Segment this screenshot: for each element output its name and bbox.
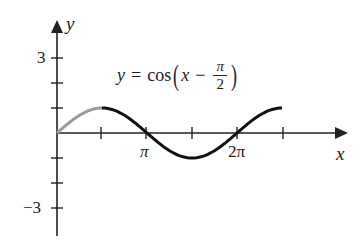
eq-lhs: y [117,65,125,86]
curve-segment-first-quarter [57,108,102,133]
equation-annotation: y = cos ( x − π 2 ) [117,58,239,92]
cosine-shift-chart [0,0,360,241]
eq-arg-var: x [181,65,189,86]
y-axis-label: y [66,14,74,33]
eq-fraction: π 2 [213,59,227,92]
y-axis-arrow-icon [51,20,63,33]
x-tick-label-pi: π [140,143,149,160]
x-axis-label: x [336,144,344,163]
x-tick-label-2pi: 2π [228,143,245,160]
y-tick-label-3: 3 [37,49,46,66]
eq-func: cos [147,65,171,86]
x-axis-arrow-icon [335,127,348,139]
left-paren: ( [173,58,179,92]
eq-minus: − [195,65,205,86]
right-paren: ) [231,58,237,92]
frac-den: 2 [217,77,225,92]
eq-sign: = [131,65,141,86]
y-tick-label-neg3: −3 [23,199,41,216]
frac-num: π [217,59,225,74]
